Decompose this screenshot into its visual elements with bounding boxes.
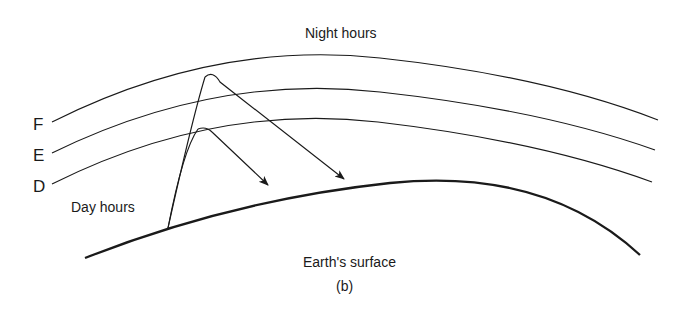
layer-arc-E — [52, 88, 655, 153]
layer-label-F: F — [33, 116, 43, 133]
figure-caption: (b) — [336, 279, 353, 293]
night-hours-label: Night hours — [305, 26, 377, 40]
layer-arc-F — [52, 55, 658, 122]
layer-label-D: D — [33, 178, 45, 195]
ionosphere-propagation-figure: F E D Night hours Day hours Earth's surf… — [0, 0, 690, 309]
earth-surface-arc — [85, 181, 640, 258]
ray-E-layer-down — [198, 128, 268, 185]
ionosphere-layer-arcs — [52, 55, 658, 184]
day-hours-label: Day hours — [71, 200, 135, 214]
earth-surface-label: Earth's surface — [303, 255, 396, 269]
ray-E-layer-up — [168, 129, 198, 228]
layer-label-E: E — [33, 147, 44, 164]
layer-arc-D — [52, 118, 652, 184]
